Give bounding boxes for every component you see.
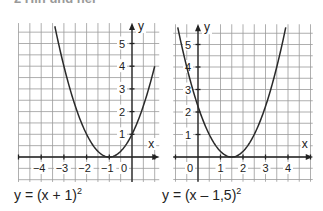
x-tick-label: −2 [78, 162, 91, 174]
axes [19, 23, 160, 182]
x-tick-label: 0 [121, 162, 127, 174]
y-axis-arrow-icon [129, 23, 135, 30]
caption-right-exponent: 2 [236, 186, 241, 196]
caption-right: y = (x – 1,5)2 [162, 186, 241, 203]
graphs-canvas: −4−3−2−1012345xy 0123412345xy [0, 0, 323, 211]
x-tick-label: 1 [217, 162, 223, 174]
x-tick-label: −3 [56, 162, 69, 174]
x-axis-label: x [302, 137, 308, 151]
grid [19, 23, 160, 182]
graph-right: 0123412345xy [173, 20, 313, 182]
y-tick-label: 1 [185, 129, 191, 141]
caption-left-text: y = (x + 1) [14, 187, 77, 203]
tick-labels: 0123412345xy [183, 20, 310, 174]
x-axis-label: x [148, 137, 154, 151]
caption-left-exponent: 2 [77, 186, 82, 196]
x-axis-arrow-icon [152, 154, 159, 160]
x-tick-label: −4 [33, 162, 46, 174]
y-tick-label: 3 [185, 84, 191, 96]
graph-left: −4−3−2−1012345xy [19, 19, 160, 182]
x-tick-label: 3 [262, 162, 268, 174]
x-tick-label: −1 [101, 162, 114, 174]
y-tick-label: 2 [119, 106, 125, 118]
y-tick-label: 1 [119, 128, 125, 140]
y-axis-label: y [138, 19, 144, 33]
y-tick-label: 4 [119, 60, 125, 72]
y-axis-arrow-icon [195, 24, 201, 31]
x-axis-arrow-icon [306, 154, 313, 160]
y-tick-label: 3 [119, 83, 125, 95]
x-tick-label: 4 [285, 162, 291, 174]
y-tick-label: 2 [185, 106, 191, 118]
y-tick-label: 5 [185, 39, 191, 51]
tick-labels: −4−3−2−1012345xy [31, 19, 156, 174]
caption-left: y = (x + 1)2 [14, 186, 82, 203]
x-tick-label: 2 [240, 162, 246, 174]
y-tick-label: 5 [119, 38, 125, 50]
y-axis-label: y [204, 20, 210, 34]
caption-right-text: y = (x – 1,5) [162, 187, 236, 203]
x-tick-label: 0 [187, 162, 193, 174]
parabola-curve [55, 26, 155, 157]
